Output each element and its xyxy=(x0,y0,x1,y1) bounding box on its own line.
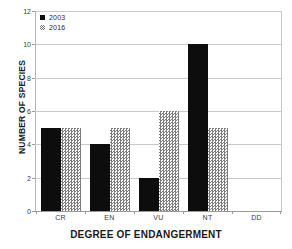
legend-swatch-icon xyxy=(40,25,45,30)
x-axis-tick-labels: CRENVUNTDD xyxy=(36,214,281,221)
x-axis-title: DEGREE OF ENDANGERMENT xyxy=(0,229,292,240)
legend-label: 2016 xyxy=(49,24,65,31)
y-tick-label: 2 xyxy=(27,174,31,181)
bar-group-dd xyxy=(232,11,281,211)
y-tick-mark xyxy=(32,111,35,112)
bar-en-2003 xyxy=(90,144,110,211)
y-tick-mark xyxy=(32,144,35,145)
bar-nt-2016 xyxy=(208,128,228,211)
bar-chart: NUMBER OF SPECIES 024681012 CRENVUNTDD D… xyxy=(0,0,292,249)
bar-groups xyxy=(36,11,281,211)
bar-en-2016 xyxy=(110,128,130,211)
y-tick-label: 8 xyxy=(27,74,31,81)
y-tick-mark xyxy=(32,78,35,79)
x-tick-label-vu: VU xyxy=(134,214,183,221)
y-tick-label: 10 xyxy=(23,41,31,48)
legend-swatch-icon xyxy=(40,15,45,20)
x-tick-label-cr: CR xyxy=(36,214,85,221)
bar-vu-2016 xyxy=(159,111,179,211)
legend-label: 2003 xyxy=(49,14,65,21)
bar-group-cr xyxy=(36,11,85,211)
bar-group-en xyxy=(85,11,134,211)
bar-cr-2003 xyxy=(41,128,61,211)
y-tick-mark xyxy=(32,11,35,12)
x-tick-label-nt: NT xyxy=(183,214,232,221)
legend-item-2016: 2016 xyxy=(40,24,65,31)
y-tick-label: 4 xyxy=(27,141,31,148)
y-tick-mark xyxy=(32,178,35,179)
y-tick-label: 6 xyxy=(27,108,31,115)
y-tick-label: 0 xyxy=(27,208,31,215)
bar-cr-2016 xyxy=(61,128,81,211)
plot-area: 024681012 xyxy=(35,11,282,211)
y-tick-mark xyxy=(32,44,35,45)
bar-vu-2003 xyxy=(139,178,159,211)
y-axis-title: NUMBER OF SPECIES xyxy=(17,42,27,172)
y-tick-mark xyxy=(32,211,35,212)
bar-group-nt xyxy=(183,11,232,211)
x-tick-label-en: EN xyxy=(85,214,134,221)
bar-group-vu xyxy=(134,11,183,211)
y-tick-label: 12 xyxy=(23,8,31,15)
chart-legend: 20032016 xyxy=(40,14,65,31)
x-tick-label-dd: DD xyxy=(232,214,281,221)
bar-nt-2003 xyxy=(188,44,208,211)
legend-item-2003: 2003 xyxy=(40,14,65,21)
